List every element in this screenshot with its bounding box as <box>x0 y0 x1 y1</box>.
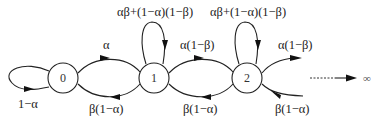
edge-1-to-1 <box>142 22 168 64</box>
arrow-head-icon <box>290 55 302 61</box>
edge-0-to-1 <box>78 55 140 73</box>
edge-1-to-0 <box>78 84 140 100</box>
edge-label-1-2: α(1−β) <box>180 38 215 52</box>
arrow-head-icon <box>270 90 281 99</box>
edge-label-2-2: αβ+(1−α)(1−β) <box>210 5 286 19</box>
arrow-head-icon <box>255 40 261 50</box>
node-label-2: 2 <box>244 71 250 85</box>
edge-2-to-2 <box>235 22 261 64</box>
edge-label-2-1: β(1−α) <box>183 102 218 116</box>
edge-2-to-1 <box>169 84 233 100</box>
arrow-head-icon <box>24 86 34 92</box>
edge-label-0-1: α <box>103 38 110 52</box>
edge-3-to-2 <box>262 84 303 99</box>
arrow-head-icon <box>194 55 204 61</box>
edge-label-1-1: αβ+(1−α)(1−β) <box>117 5 193 19</box>
markov-chain-diagram: 1−α α β(1−α) αβ+(1−α)(1−β) α(1−β) β(1−α)… <box>0 0 381 124</box>
arrow-head-icon <box>110 94 120 100</box>
edge-2-to-3 <box>262 55 302 73</box>
edge-0-to-0 <box>9 66 49 92</box>
node-2: 2 <box>232 63 262 93</box>
node-0: 0 <box>48 63 78 93</box>
edge-label-2-3: α(1−β) <box>278 38 313 52</box>
node-label-1: 1 <box>151 71 157 85</box>
arrow-to-infinity <box>310 75 357 82</box>
edge-1-to-2 <box>169 55 233 73</box>
infinity-label: ∞ <box>363 72 371 84</box>
edge-label-0-0: 1−α <box>18 97 38 111</box>
node-label-0: 0 <box>60 71 66 85</box>
edge-label-3-2: β(1−α) <box>275 102 310 116</box>
node-1: 1 <box>139 63 169 93</box>
arrow-head-icon <box>346 75 357 82</box>
arrow-head-icon <box>201 94 211 100</box>
edge-label-1-0: β(1−α) <box>89 102 124 116</box>
arrow-head-icon <box>162 40 168 50</box>
